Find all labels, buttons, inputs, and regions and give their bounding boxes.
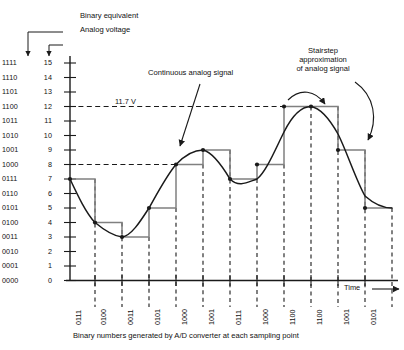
annotation-stairstep-line2: approximation: [276, 55, 370, 64]
stairstep-approximation: [70, 107, 392, 238]
y-label-decimal-15: 15: [40, 58, 52, 67]
y-label-decimal-12: 12: [40, 102, 52, 111]
y-label-binary-0110: 0110: [2, 189, 28, 198]
annotation-stairstep-line1: Stairstep: [276, 46, 370, 55]
leader-binary-equivalent: [28, 32, 63, 56]
figure-canvas: Binary equivalent Analog voltage Continu…: [0, 0, 404, 350]
x-label-sample-1: 0111: [74, 310, 83, 325]
continuous-analog-signal: [70, 107, 392, 238]
sample-points: [68, 104, 367, 239]
y-label-binary-0101: 0101: [2, 203, 28, 212]
y-label-binary-0000: 0000: [2, 276, 28, 285]
annotation-binary-equivalent: Binary equivalent: [80, 11, 138, 20]
label-voltage-marker: 11.7 V: [115, 97, 136, 106]
x-label-sample-7: 0111: [234, 310, 243, 325]
y-label-decimal-4: 4: [40, 218, 52, 227]
y-label-binary-1010: 1010: [2, 131, 28, 140]
x-label-sample-3: 0011: [126, 310, 135, 325]
y-label-binary-1110: 1110: [2, 73, 28, 82]
x-label-sample-12: 0101: [369, 309, 378, 325]
y-label-decimal-10: 10: [40, 131, 52, 140]
annotation-continuous-analog-signal: Continuous analog signal: [148, 68, 233, 77]
x-label-sample-6: 1001: [207, 309, 216, 325]
y-label-decimal-9: 9: [40, 145, 52, 154]
arrow-stairstep-curve-left: [288, 92, 325, 104]
x-label-sample-4: 0101: [153, 309, 162, 325]
y-label-decimal-14: 14: [40, 73, 52, 82]
annotation-stairstep: Stairstep approximation of analog signal: [276, 46, 370, 73]
arrow-continuous-signal: [180, 84, 200, 146]
y-label-decimal-13: 13: [40, 87, 52, 96]
y-label-decimal-3: 3: [40, 232, 52, 241]
y-label-decimal-5: 5: [40, 203, 52, 212]
y-label-binary-1111: 1111: [2, 58, 28, 67]
x-label-sample-10: 1100: [315, 310, 324, 325]
y-label-binary-1000: 1000: [2, 160, 28, 169]
y-label-binary-0011: 0011: [2, 232, 28, 241]
x-label-sample-8: 1000: [261, 309, 270, 325]
y-label-binary-1101: 1101: [2, 87, 28, 96]
y-label-binary-1100: 1100: [2, 102, 28, 111]
y-label-decimal-8: 8: [40, 160, 52, 169]
annotation-stairstep-line3: of analog signal: [276, 64, 370, 73]
y-label-binary-1001: 1001: [2, 145, 28, 154]
y-label-decimal-1: 1: [40, 261, 52, 270]
y-label-decimal-0: 0: [40, 276, 52, 285]
annotation-analog-voltage: Analog voltage: [80, 25, 130, 34]
x-label-sample-9: 1100: [288, 310, 297, 325]
y-label-decimal-7: 7: [40, 174, 52, 183]
y-label-decimal-2: 2: [40, 247, 52, 256]
y-label-binary-0111: 0111: [2, 174, 28, 183]
y-label-binary-0010: 0010: [2, 247, 28, 256]
figure-caption: Binary numbers generated by A/D converte…: [73, 331, 299, 340]
y-label-binary-0100: 0100: [2, 218, 28, 227]
leader-analog-voltage: [49, 45, 63, 56]
x-label-sample-5: 1000: [180, 309, 189, 325]
label-time-axis: Time: [344, 283, 360, 292]
x-label-sample-11: 1001: [342, 309, 351, 325]
y-label-decimal-11: 11: [40, 116, 52, 125]
arrow-stairstep: [355, 82, 374, 140]
y-label-binary-0001: 0001: [2, 261, 28, 270]
x-label-sample-2: 0100: [99, 309, 108, 325]
y-label-decimal-6: 6: [40, 189, 52, 198]
sampling-lines: [95, 107, 392, 308]
y-label-binary-1011: 1011: [2, 116, 28, 125]
